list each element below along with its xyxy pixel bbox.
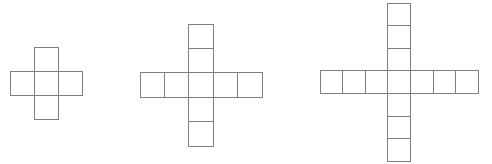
- unit-square: [189, 122, 213, 146]
- unit-square: [320, 71, 343, 94]
- cross-2: [140, 24, 262, 146]
- unit-square: [34, 71, 58, 95]
- unit-square: [388, 48, 411, 71]
- unit-square: [189, 48, 213, 72]
- unit-square: [433, 71, 456, 94]
- unit-square: [213, 73, 237, 97]
- unit-square: [238, 73, 262, 97]
- unit-square: [10, 71, 34, 95]
- unit-square: [410, 71, 433, 94]
- unit-square: [388, 71, 411, 94]
- unit-square: [189, 97, 213, 121]
- unit-square: [388, 93, 411, 116]
- unit-square: [34, 95, 58, 119]
- unit-square: [365, 71, 388, 94]
- unit-square: [58, 71, 82, 95]
- unit-square: [388, 3, 411, 26]
- unit-square: [164, 73, 188, 97]
- unit-square: [388, 26, 411, 49]
- unit-square: [343, 71, 366, 94]
- figure-svg: [0, 0, 492, 164]
- unit-square: [456, 71, 479, 94]
- unit-square: [140, 73, 164, 97]
- cross-1: [10, 47, 82, 119]
- unit-square: [189, 73, 213, 97]
- unit-square: [189, 24, 213, 48]
- unit-square: [388, 116, 411, 139]
- figure-canvas: [0, 0, 492, 164]
- unit-square: [34, 47, 58, 71]
- cross-3: [320, 3, 478, 161]
- unit-square: [388, 139, 411, 162]
